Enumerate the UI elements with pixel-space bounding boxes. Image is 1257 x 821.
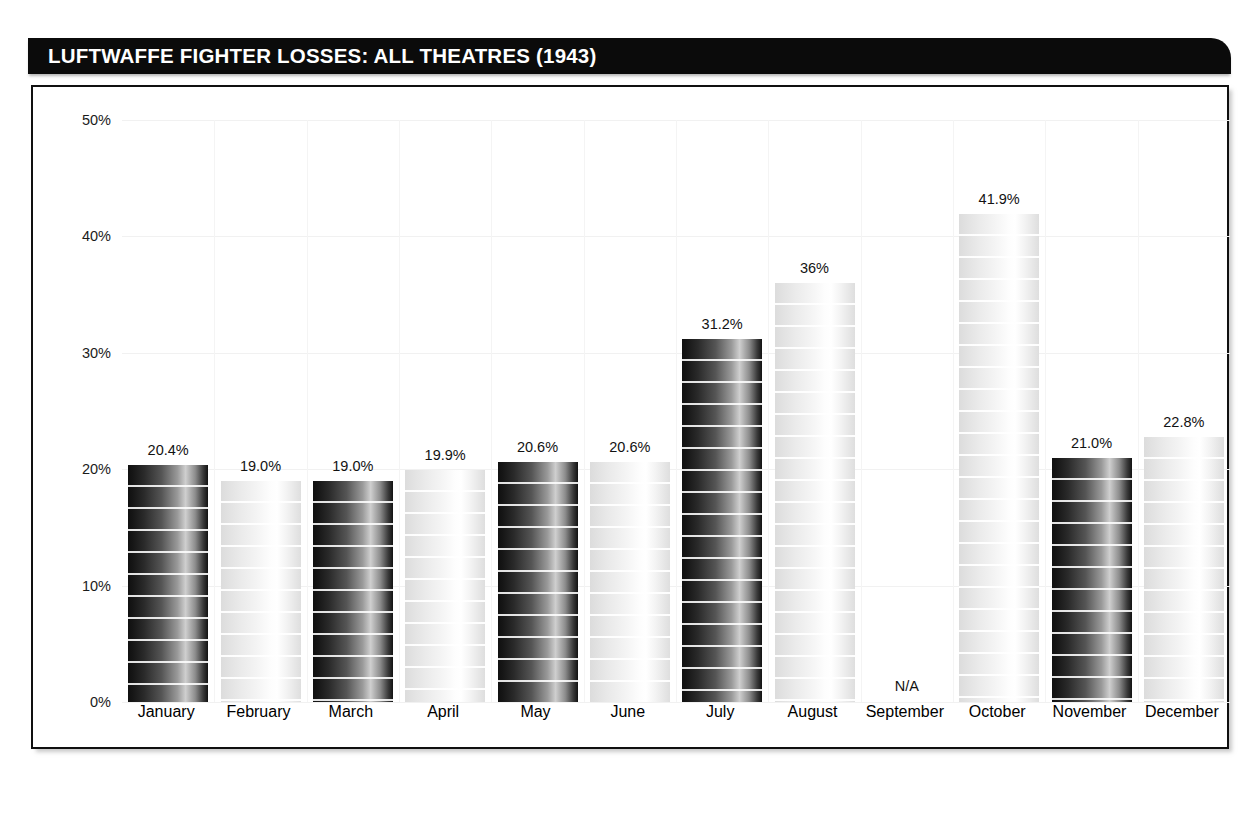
bar-banding (590, 462, 670, 702)
page-title: LUFTWAFFE FIGHTER LOSSES: ALL THEATRES (… (48, 44, 596, 68)
bar-banding (1144, 437, 1224, 702)
bar-group[interactable]: 36% (775, 120, 855, 702)
bar-group[interactable]: 22.8% (1144, 120, 1224, 702)
chart-title-bar: LUFTWAFFE FIGHTER LOSSES: ALL THEATRES (… (28, 38, 1231, 74)
gridline-vertical (768, 120, 769, 702)
x-axis-labels: JanuaryFebruaryMarchAprilMayJuneJulyAugu… (120, 703, 1228, 727)
bar-group[interactable]: 41.9% (959, 120, 1039, 702)
bar-june[interactable] (590, 462, 670, 702)
bar-october[interactable] (959, 214, 1039, 702)
gridline-vertical (1138, 120, 1139, 702)
bar-february[interactable] (221, 481, 301, 702)
bar-banding (128, 465, 208, 702)
x-axis-tick-label: June (582, 703, 674, 721)
bar-group[interactable]: 20.4% (128, 120, 208, 702)
y-axis-tick-label: 20% (82, 461, 111, 477)
bar-group[interactable]: 19.0% (313, 120, 393, 702)
bar-may[interactable] (498, 462, 578, 702)
bar-value-label: 20.6% (609, 439, 650, 455)
gridline-vertical (214, 120, 215, 702)
gridline-vertical (399, 120, 400, 702)
bar-banding (405, 470, 485, 702)
bar-value-label: 20.6% (517, 439, 558, 455)
y-axis-tick-label: 10% (82, 578, 111, 594)
chart-frame: 0%10%20%30%40%50% 20.4%19.0%19.0%19.9%20… (31, 85, 1229, 749)
bar-august[interactable] (775, 283, 855, 702)
chart-page: LUFTWAFFE FIGHTER LOSSES: ALL THEATRES (… (0, 0, 1257, 821)
x-axis-tick-label: April (397, 703, 489, 721)
gridline-vertical (861, 120, 862, 702)
bar-banding (313, 481, 393, 702)
bar-value-label: 31.2% (702, 316, 743, 332)
bar-group[interactable]: 20.6% (498, 120, 578, 702)
bar-banding (221, 481, 301, 702)
x-axis-tick-label: October (951, 703, 1043, 721)
gridline-vertical (1045, 120, 1046, 702)
x-axis-tick-label: July (674, 703, 766, 721)
bar-value-label: 36% (800, 260, 829, 276)
x-axis-tick-label: November (1043, 703, 1135, 721)
bar-banding (1052, 458, 1132, 702)
y-axis-labels: 0%10%20%30%40%50% (33, 120, 111, 702)
bar-value-label: 19.0% (332, 458, 373, 474)
x-axis-tick-label: March (305, 703, 397, 721)
bar-value-label: 21.0% (1071, 435, 1112, 451)
x-axis-tick-label: September (859, 703, 951, 721)
y-axis-tick-label: 0% (90, 694, 111, 710)
bar-january[interactable] (128, 465, 208, 702)
x-axis-tick-label: August (766, 703, 858, 721)
bar-banding (682, 339, 762, 702)
bar-value-label: 22.8% (1163, 414, 1204, 430)
gridline-vertical (491, 120, 492, 702)
bar-december[interactable] (1144, 437, 1224, 702)
bar-banding (498, 462, 578, 702)
x-axis-tick-label: December (1136, 703, 1228, 721)
gridline-vertical (307, 120, 308, 702)
y-axis-tick-label: 30% (82, 345, 111, 361)
bar-group[interactable]: 19.9% (405, 120, 485, 702)
bar-value-label: 20.4% (148, 442, 189, 458)
bar-group[interactable]: N/A (867, 120, 947, 702)
bar-banding (959, 214, 1039, 702)
bar-value-label: 41.9% (979, 191, 1020, 207)
bar-group[interactable]: 21.0% (1052, 120, 1132, 702)
gridline-vertical (953, 120, 954, 702)
bar-value-label: 19.0% (240, 458, 281, 474)
bar-group[interactable]: 19.0% (221, 120, 301, 702)
bar-group[interactable]: 31.2% (682, 120, 762, 702)
gridline-vertical (676, 120, 677, 702)
bar-november[interactable] (1052, 458, 1132, 702)
bar-value-label-na: N/A (895, 678, 919, 694)
y-axis-tick-label: 50% (82, 112, 111, 128)
bar-value-label: 19.9% (425, 447, 466, 463)
x-axis-tick-label: February (212, 703, 304, 721)
bar-march[interactable] (313, 481, 393, 702)
x-axis-tick-label: May (489, 703, 581, 721)
bar-july[interactable] (682, 339, 762, 702)
bar-group[interactable]: 20.6% (590, 120, 670, 702)
bar-banding (775, 283, 855, 702)
gridline-vertical (584, 120, 585, 702)
bar-april[interactable] (405, 470, 485, 702)
y-axis-tick-label: 40% (82, 228, 111, 244)
x-axis-tick-label: January (120, 703, 212, 721)
plot-area: 20.4%19.0%19.0%19.9%20.6%20.6%31.2%36%N/… (122, 120, 1230, 702)
